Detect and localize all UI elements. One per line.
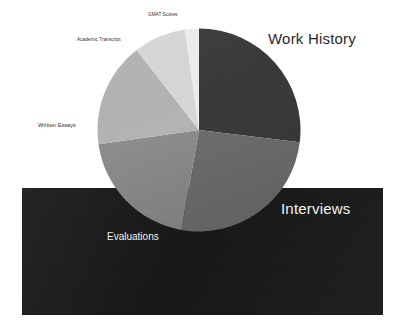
- pie-chart: [97, 28, 301, 232]
- pie-chart-svg: [97, 28, 301, 232]
- slice-label-interviews: Interviews: [281, 200, 351, 217]
- slice-label-academic-transcript: Academic Transcript: [77, 37, 121, 42]
- pie-shading-overlay: [98, 29, 301, 232]
- slice-label-work-history: Work History: [268, 30, 356, 47]
- slice-label-written-essays: Written Essays: [38, 122, 76, 128]
- slice-label-evaluations: Evaluations: [107, 231, 159, 243]
- chart-canvas: Work History Interviews Evaluations Writ…: [0, 0, 405, 336]
- slice-label-gmat-scores: GMAT Scores: [148, 12, 178, 17]
